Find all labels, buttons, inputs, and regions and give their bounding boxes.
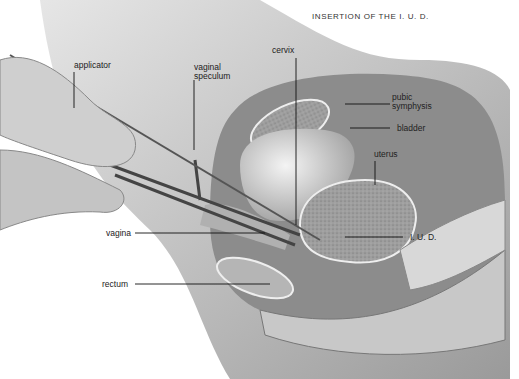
label-rectum: rectum [102,280,128,289]
label-cervix: cervix [272,46,294,55]
anatomy-illustration [0,0,519,379]
label-pubic-symphysis-line2: symphysis [392,102,432,111]
label-uterus: uterus [374,150,398,159]
diagram-title: INSERTION OF THE I. U. D. [312,12,429,21]
label-vaginal-speculum-line2: speculum [194,72,230,81]
label-bladder: bladder [397,124,425,133]
uterus [300,180,416,263]
iud-insertion-diagram: INSERTION OF THE I. U. D. applicator vag… [0,0,519,379]
label-iud: I. U. D. [410,233,436,242]
label-applicator: applicator [74,61,111,70]
label-vagina: vagina [106,229,131,238]
